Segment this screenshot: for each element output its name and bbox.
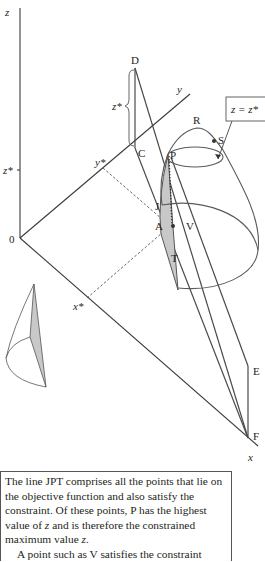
point-label-f: F (253, 430, 259, 442)
constrained-optimization-diagram: z z* 0 y y* x x* z* z = z* D C R (0, 0, 265, 470)
origin-label: 0 (9, 233, 15, 245)
caption-text: . (86, 533, 89, 545)
x-axis (20, 238, 258, 446)
caption-paragraph-1: The line JPT comprises all the points th… (5, 474, 231, 547)
point-s-dot (212, 139, 216, 143)
point-label-v: V (186, 220, 194, 232)
point-label-r: R (193, 114, 201, 126)
callout-text: z = z* (230, 103, 258, 115)
caption-paragraph-2: A point such as V satisfies the constrai… (5, 547, 231, 562)
caption-box: The line JPT comprises all the points th… (0, 471, 232, 561)
callout-arrowhead (215, 154, 221, 159)
point-label-d: D (131, 54, 139, 66)
point-label-c: C (138, 147, 145, 159)
surface-mid-ellipse (162, 203, 258, 250)
point-label-p: P (170, 149, 176, 161)
point-label-a: A (155, 220, 163, 232)
y-axis-label: y (176, 83, 182, 95)
plane-edge-e-up (171, 157, 248, 366)
z-star-tick-label: z* (2, 164, 13, 176)
point-label-e: E (253, 365, 260, 377)
z-axis-label: z (4, 6, 10, 18)
z-star-brace (125, 70, 134, 146)
x-axis-label: x (247, 451, 253, 463)
inset-cone (6, 284, 46, 387)
point-v-dot (171, 224, 175, 228)
y-star-tick-label: y* (94, 156, 106, 168)
plane-edge-cf (135, 148, 248, 438)
point-label-s: S (218, 134, 224, 146)
point-label-j: J (155, 200, 160, 212)
x-star-projection (87, 226, 170, 298)
x-star-tick-label: x* (72, 300, 84, 312)
brace-label: z* (111, 100, 122, 112)
point-label-t: T (171, 252, 178, 264)
